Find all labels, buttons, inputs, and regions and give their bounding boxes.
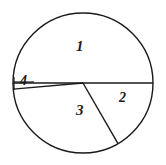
sector-divider-lower-right [83, 83, 118, 144]
pie-chart-figure: 1 2 3 4 [0, 0, 166, 165]
slice-label-2: 2 [119, 91, 126, 105]
slice-label-3: 3 [76, 103, 84, 118]
slice-label-1: 1 [76, 39, 84, 54]
slice-label-4: 4 [20, 74, 27, 88]
